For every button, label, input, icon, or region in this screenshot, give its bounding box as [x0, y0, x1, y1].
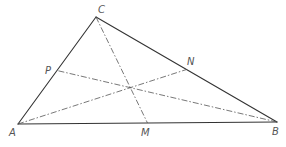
- label-p: P: [45, 65, 52, 76]
- label-m: M: [141, 127, 150, 138]
- side-ac: [18, 17, 96, 124]
- label-c: C: [98, 4, 105, 15]
- label-n: N: [187, 56, 195, 67]
- triangle-diagram: A B C M N P: [0, 0, 286, 147]
- median-cm: [96, 17, 148, 123]
- label-a: A: [8, 127, 16, 138]
- median-an: [18, 70, 187, 125]
- median-bp: [57, 71, 277, 123]
- label-b: B: [272, 126, 279, 137]
